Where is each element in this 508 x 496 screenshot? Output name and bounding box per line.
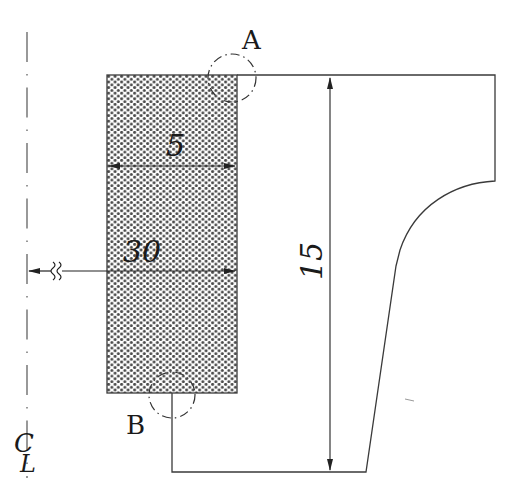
dimension-label-radius: 30 — [123, 234, 161, 269]
detail-label-a: A — [241, 25, 262, 55]
centerline-symbol: C L — [14, 428, 36, 478]
drawing-canvas: C L A B 5 30 15 — [0, 0, 508, 496]
dimension-label-width: 5 — [166, 128, 185, 163]
svg-text:L: L — [19, 450, 36, 478]
break-icon — [51, 262, 61, 280]
dimension-label-height: 15 — [294, 242, 329, 280]
detail-label-b: B — [126, 410, 145, 440]
